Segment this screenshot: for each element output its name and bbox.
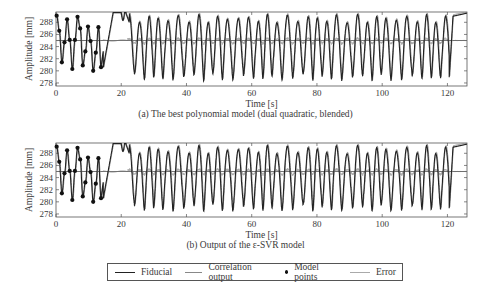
svg-text:284: 284 — [40, 173, 54, 183]
legend-item-fiducial: Fiducial — [115, 267, 172, 277]
svg-text:40: 40 — [182, 88, 192, 98]
legend-label: Correlation output — [208, 262, 268, 282]
svg-text:100: 100 — [375, 88, 389, 98]
svg-text:80: 80 — [312, 88, 322, 98]
panel-b-plot: 020406080100120278280282284286288Time [s… — [24, 143, 468, 240]
legend-item-model-points: Model points — [282, 262, 337, 282]
svg-text:284: 284 — [40, 42, 54, 52]
model-point-dot-icon — [285, 270, 288, 274]
legend-item-error: Error — [350, 267, 396, 277]
svg-text:278: 278 — [40, 209, 54, 219]
svg-text:20: 20 — [117, 88, 127, 98]
legend-item-correlation-output: Correlation output — [185, 262, 269, 282]
svg-text:40: 40 — [182, 219, 192, 229]
svg-text:282: 282 — [40, 185, 54, 195]
svg-text:20: 20 — [117, 219, 127, 229]
svg-text:0: 0 — [54, 88, 59, 98]
svg-text:278: 278 — [40, 78, 54, 88]
svg-text:280: 280 — [40, 66, 54, 76]
svg-text:282: 282 — [40, 54, 54, 64]
legend-label: Fiducial — [141, 267, 172, 277]
svg-text:280: 280 — [40, 197, 54, 207]
panel-a-caption: (a) The best polynomial model (dual quad… — [0, 109, 491, 119]
legend-label: Model points — [294, 262, 337, 282]
svg-text:Amplitude [mm]: Amplitude [mm] — [24, 148, 34, 212]
svg-text:Time [s]: Time [s] — [245, 99, 277, 109]
svg-text:288: 288 — [40, 148, 54, 158]
svg-text:60: 60 — [247, 88, 257, 98]
svg-text:80: 80 — [312, 219, 322, 229]
panel-b-caption: (b) Output of the ε-SVR model — [0, 240, 491, 250]
svg-text:288: 288 — [40, 17, 54, 27]
svg-text:120: 120 — [441, 219, 455, 229]
legend: Fiducial Correlation output Model points… — [107, 263, 403, 281]
svg-text:120: 120 — [441, 88, 455, 98]
error-line-icon — [350, 272, 370, 273]
legend-label: Error — [376, 267, 396, 277]
panel-a-plot: 020406080100120278280282284286288Time [s… — [24, 12, 468, 109]
fiducial-line-icon — [115, 272, 135, 273]
svg-text:286: 286 — [40, 160, 54, 170]
svg-text:Amplitude [mm]: Amplitude [mm] — [24, 17, 34, 81]
svg-text:Time [s]: Time [s] — [245, 230, 277, 240]
svg-text:286: 286 — [40, 29, 54, 39]
svg-text:100: 100 — [375, 219, 389, 229]
svg-text:0: 0 — [54, 219, 59, 229]
svg-text:60: 60 — [247, 219, 257, 229]
correlation-line-icon — [185, 272, 202, 273]
